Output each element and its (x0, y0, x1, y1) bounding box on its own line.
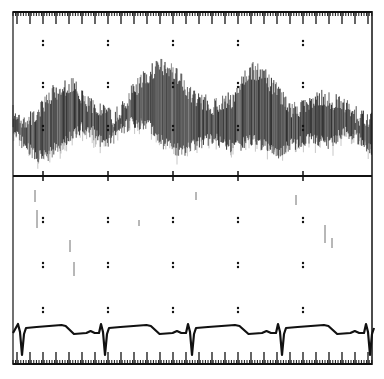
figure-frame (13, 11, 372, 365)
ecg-trace (13, 324, 374, 355)
doppler-spectrogram (13, 59, 371, 169)
zero-baseline-divider (13, 171, 372, 181)
reverse-flow-specks (35, 190, 332, 276)
top-time-ruler (13, 12, 372, 24)
doppler-ecg-figure (0, 0, 384, 379)
